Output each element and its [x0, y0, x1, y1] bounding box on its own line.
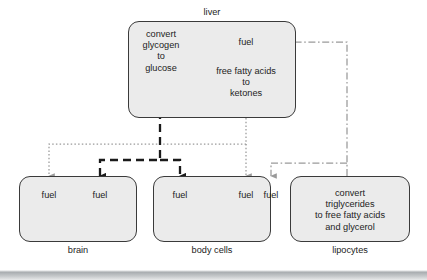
node-body-cells[interactable] [153, 176, 271, 242]
connector-lipocytes-to-body-cells [246, 163, 347, 176]
brain-fuel-1-label: fuel [32, 190, 66, 200]
node-brain[interactable] [19, 176, 137, 242]
node-body-cells-label: body cells [153, 245, 271, 255]
node-brain-label: brain [19, 245, 137, 255]
liver-ketones-text: free fatty acids to ketones [193, 66, 299, 100]
liver-fuel-label: fuel [225, 37, 267, 47]
brain-fuel-2-label: fuel [83, 190, 117, 200]
connector-glucose-to-body-cells [160, 160, 180, 176]
diagram-canvas: liver convert glycogen to glucose fuel f… [0, 0, 427, 280]
body-fuel-3-label: fuel [254, 190, 288, 200]
lipocytes-convert-text: convert triglycerides to free fatty acid… [291, 188, 409, 233]
body-fuel-1-label: fuel [163, 190, 197, 200]
connector-ketones-to-brain [49, 118, 246, 176]
node-liver-label: liver [128, 7, 296, 17]
bottom-gray-band [0, 270, 427, 280]
liver-glycogen-text: convert glycogen to glucose [131, 29, 191, 74]
node-lipocytes-label: lipocytes [290, 245, 410, 255]
